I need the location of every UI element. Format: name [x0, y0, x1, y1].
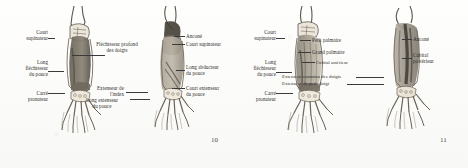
figure-4-posterior-superficial: [379, 6, 437, 134]
figure-3-anterior-superficial: [278, 6, 340, 134]
label-line: supinateur: [238, 35, 276, 41]
leader-f2-court-extenseur: [172, 88, 185, 89]
label-f2-long-abducteur-du-pouce: Long abducteur du pouce: [186, 64, 219, 76]
figure-4-drawing: [379, 6, 437, 134]
label-line: Court supinateur: [186, 41, 221, 47]
leader-f2-ancone: [174, 36, 185, 37]
label-f3-extenseur-commun-des-doigts: Extenseur commun des doigts: [282, 74, 341, 80]
leader-f3-court-supinateur: [276, 38, 285, 39]
leader-f3-carre-pronateur: [276, 93, 293, 94]
figure-1-drawing: [52, 6, 110, 134]
leader-f1-flechisseur-profond: [72, 55, 105, 56]
plate-page-11: Court supinateur Long fléchisseur du pou…: [234, 0, 468, 168]
label-line: supinateur: [6, 35, 48, 41]
label-f2-ancone: Anconé: [186, 33, 202, 39]
label-line: du pouce: [4, 71, 48, 77]
label-line: Anconé: [413, 36, 429, 42]
leader-f1-court-supinateur: [48, 38, 55, 39]
label-line: du pouce: [76, 103, 128, 109]
leader-f4-cubital-posterieur: [402, 58, 412, 59]
figure-3-drawing: [278, 6, 340, 134]
leader-f2-long-extenseur: [130, 99, 150, 100]
anatomy-plate-page: Court supinateur Long fléchisseur du pou…: [0, 0, 468, 168]
label-f3-extenseur-du-petit-doigt: Extenseur du petit doigt: [282, 81, 329, 87]
leader-f2-long-abducteur: [176, 70, 185, 71]
leader-f3-cubital-anterieur: [302, 62, 315, 63]
folio-page-11: 11: [440, 136, 447, 144]
folio-page-10: 10: [211, 136, 218, 144]
label-f3-long-flechisseur-du-pouce: Long fléchisseur du pouce: [236, 59, 276, 77]
label-f2-long-extenseur-du-pouce: Long extenseur du pouce: [76, 97, 128, 109]
label-line: des doigts: [82, 47, 152, 53]
label-line: pronateur: [238, 96, 276, 102]
label-f2-extenseur-de-l-index: Extenseur de l'index: [78, 85, 124, 97]
leader-f1-carre-pronateur: [48, 93, 65, 94]
label-f3-grand-palmaire: Grand palmaire: [312, 49, 345, 55]
label-f4-ancone: Anconé: [413, 36, 429, 42]
leader-f3-long-flechisseur-du-pouce: [276, 72, 292, 73]
label-f1-long-flechisseur-du-pouce: Long fléchisseur du pouce: [4, 59, 48, 77]
label-line: du pouce: [186, 70, 219, 76]
label-f3-carre-pronateur: Carré pronateur: [238, 90, 276, 102]
plate-page-10: Court supinateur Long fléchisseur du pou…: [0, 0, 234, 168]
label-line: du pouce: [236, 71, 276, 77]
leader-f2-extenseur-index: [126, 92, 148, 93]
leader-f1-long-flechisseur-du-pouce: [48, 71, 64, 72]
label-line: Cubital antérieur: [316, 60, 348, 66]
leader-f3-grand-palmaire: [298, 52, 311, 53]
figure-1-anterior-deep: [52, 6, 110, 134]
leader-f3-petit-palmaire: [300, 40, 311, 41]
label-f1-court-supinateur: Court supinateur: [6, 29, 48, 41]
label-f1-flechisseur-profond-des-doigts: Fléchisseur profond des doigts: [82, 41, 152, 53]
label-f2-court-extenseur-du-pouce: Court extenseur du pouce: [186, 85, 219, 97]
label-f2-court-supinateur: Court supinateur: [186, 41, 221, 47]
label-f1-carre-pronateur: Carré pronateur: [6, 90, 48, 102]
label-f3-petit-palmaire: Petit palmaire: [312, 37, 341, 43]
label-line: Anconé: [186, 33, 202, 39]
label-line: du pouce: [186, 91, 219, 97]
label-line: postérieur: [413, 58, 434, 64]
label-line: Petit palmaire: [312, 37, 341, 43]
label-line: Extenseur du petit doigt: [282, 81, 329, 87]
label-f3-cubital-anterieur: Cubital antérieur: [316, 60, 348, 66]
leader-f2-court-supinateur: [172, 44, 185, 45]
label-f3-court-supinateur: Court supinateur: [238, 29, 276, 41]
leader-f4-ancone: [402, 39, 412, 40]
label-f4-cubital-posterieur: Cubital postérieur: [413, 52, 434, 64]
label-line: Grand palmaire: [312, 49, 345, 55]
label-line: pronateur: [6, 96, 48, 102]
label-line: Extenseur commun des doigts: [282, 74, 341, 80]
